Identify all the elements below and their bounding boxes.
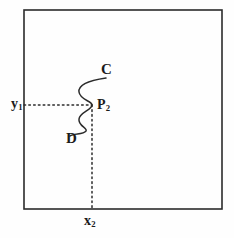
- label-x2: x2: [84, 214, 95, 228]
- label-y-text: y: [11, 96, 18, 111]
- label-x-subscript: 2: [91, 219, 95, 229]
- label-D-text: D: [66, 130, 77, 146]
- label-y1: y1: [11, 97, 22, 111]
- label-P-subscript: 2: [106, 103, 110, 113]
- label-curve-upper-C: C: [101, 62, 112, 77]
- label-C-text: C: [101, 61, 112, 77]
- label-P-text: P: [97, 97, 106, 112]
- label-point-p2: P2: [97, 98, 110, 112]
- label-curve-lower-D: D: [66, 131, 77, 146]
- geometry-figure: C D P2 y1 x2: [0, 0, 234, 238]
- label-y-subscript: 1: [18, 102, 22, 112]
- label-x-text: x: [84, 213, 91, 228]
- bounding-rectangle: [24, 10, 222, 209]
- figure-canvas: [0, 0, 234, 238]
